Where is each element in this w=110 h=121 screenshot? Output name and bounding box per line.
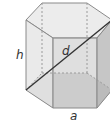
label-h: h [16, 48, 24, 62]
label-d: d [62, 44, 70, 58]
hexagonal-prism-diagram: h d a [0, 0, 110, 121]
label-a: a [70, 109, 77, 121]
